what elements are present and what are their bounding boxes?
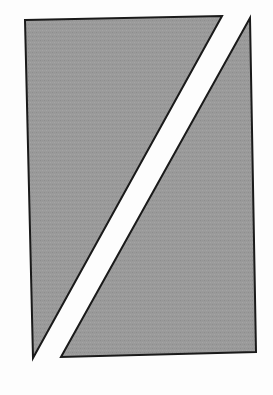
geometric-figure [0,0,273,395]
figure-canvas [0,0,273,395]
